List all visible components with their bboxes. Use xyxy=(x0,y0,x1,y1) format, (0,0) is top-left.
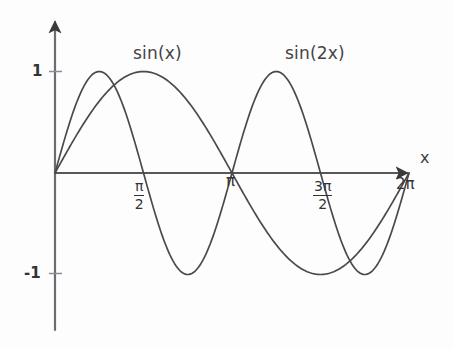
sine-plot-figure: sin(x) sin(2x) x 1 -1 π 2 π 3π 2 2π xyxy=(0,0,454,349)
curve-label-sin-2x: sin(2x) xyxy=(285,45,345,62)
fraction-numerator: π xyxy=(134,179,144,194)
fraction-3pi-over-2: 3π 2 xyxy=(313,179,332,211)
x-tick-label-pi: π xyxy=(226,174,235,189)
y-tick-label-one: 1 xyxy=(32,64,42,79)
x-tick-label-pi-over-2: π 2 xyxy=(134,179,144,212)
curve-label-sin-x: sin(x) xyxy=(133,45,182,62)
fraction-pi-over-2: π 2 xyxy=(134,179,144,211)
fraction-denominator: 2 xyxy=(134,196,144,212)
x-tick-label-2pi: 2π xyxy=(396,177,415,192)
fraction-numerator: 3π xyxy=(313,179,332,194)
fraction-denominator: 2 xyxy=(313,196,332,212)
y-tick-label-minus-one: -1 xyxy=(24,266,41,281)
x-tick-label-3pi-over-2: 3π 2 xyxy=(313,179,332,212)
x-axis-label: x xyxy=(420,150,429,166)
